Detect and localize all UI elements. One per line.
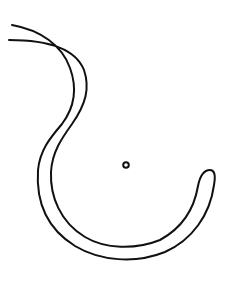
hook-outer-edge <box>9 25 215 259</box>
small-circle <box>123 162 129 168</box>
hook-drawing <box>0 0 242 308</box>
